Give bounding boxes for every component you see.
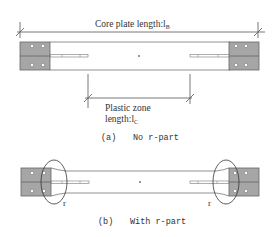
core-plate-length-dimension: Core plate length:lB	[16, 19, 265, 38]
plastic-zone-label-line1: Plastic zone	[105, 103, 151, 113]
bolt-hole-icon	[234, 63, 237, 66]
bolt-hole-icon	[41, 63, 44, 66]
bolt-hole-icon	[233, 189, 236, 192]
bolt-hole-icon	[30, 63, 33, 66]
figure-b-with-r-part: r r (b) With r-part	[21, 160, 259, 227]
bolt-hole-icon	[244, 63, 247, 66]
plastic-zone-length-dimension: Plastic zone length:lC	[84, 74, 194, 125]
core-plate-b	[51, 168, 229, 196]
caption-a-letter: (a)	[101, 133, 116, 143]
caption-a-text: No r-part	[133, 133, 179, 143]
end-plate-left-b	[21, 168, 51, 196]
r-label-left: r	[63, 198, 66, 208]
plastic-zone-label-line2: length:lC	[105, 114, 138, 125]
end-plate-left-a	[20, 42, 50, 70]
bolt-hole-icon	[30, 171, 33, 174]
bolt-hole-icon	[244, 44, 247, 47]
bolt-hole-icon	[233, 171, 236, 174]
bolt-hole-icon	[41, 44, 44, 47]
core-plate-a	[50, 42, 230, 70]
caption-b: (b) With r-part	[98, 217, 186, 227]
brace-diagram: Core plate length:lB	[0, 0, 274, 237]
bolt-hole-icon	[244, 171, 247, 174]
end-plate-right-a	[229, 42, 259, 70]
figure-a-no-r-part: Core plate length:lB	[16, 19, 265, 143]
bolt-hole-icon	[244, 189, 247, 192]
caption-b-letter: (b)	[98, 217, 113, 227]
bolt-hole-icon	[234, 44, 237, 47]
caption-a: (a) No r-part	[101, 133, 179, 143]
caption-b-text: With r-part	[130, 217, 186, 227]
r-label-right: r	[208, 198, 211, 208]
bolt-hole-icon	[30, 44, 33, 47]
core-plate-length-label: Core plate length:lB	[95, 19, 170, 30]
end-plate-right-b	[229, 168, 259, 196]
bolt-hole-icon	[30, 189, 33, 192]
